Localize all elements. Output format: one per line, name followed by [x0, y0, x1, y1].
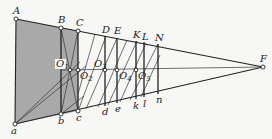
- label-F: F: [259, 53, 268, 64]
- label-D: D: [101, 24, 110, 35]
- label-e: e: [115, 103, 121, 114]
- label-K: K: [132, 29, 141, 40]
- label-L: L: [141, 31, 149, 42]
- label-l: l: [143, 98, 146, 109]
- point-O1: [68, 68, 72, 72]
- horizon-line: [62, 67, 263, 70]
- label-b: b: [58, 115, 64, 126]
- label-c: c: [76, 112, 82, 123]
- point-A: [14, 17, 18, 21]
- label-B: B: [57, 14, 65, 25]
- label-O4: O4: [119, 70, 132, 83]
- label-a: a: [11, 125, 17, 136]
- label-A: A: [12, 5, 20, 16]
- point-C: [76, 29, 80, 33]
- label-N: N: [154, 32, 165, 43]
- label-d: d: [102, 106, 108, 117]
- label-n: n: [156, 94, 162, 105]
- label-C: C: [76, 17, 84, 28]
- label-E: E: [113, 25, 122, 36]
- point-B: [59, 26, 63, 30]
- point-F: [261, 65, 265, 69]
- label-k: k: [133, 100, 139, 111]
- perspective-diagram: A B C D E K L N F a b c d e k l n O1 O2 …: [0, 0, 272, 139]
